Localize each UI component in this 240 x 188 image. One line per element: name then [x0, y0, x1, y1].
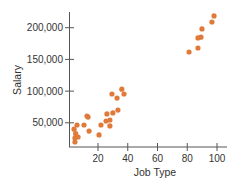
- data-point: [198, 35, 203, 40]
- data-point: [209, 19, 214, 24]
- x-axis-title: Job Type: [134, 166, 177, 178]
- data-point: [114, 95, 119, 100]
- data-point: [107, 123, 112, 128]
- data-point: [107, 117, 112, 122]
- scatter-chart: 50,000100,000150,000200,000 20406080100 …: [0, 0, 240, 188]
- data-point: [199, 26, 204, 31]
- y-tick-label: 150,000: [27, 54, 64, 65]
- x-tick-label: 80: [182, 153, 194, 164]
- y-tick-label: 200,000: [27, 22, 64, 33]
- data-point: [98, 122, 103, 127]
- data-point: [115, 108, 120, 113]
- data-point: [86, 128, 91, 133]
- x-tick-label: 20: [92, 153, 104, 164]
- data-point: [121, 91, 126, 96]
- y-ticks: 50,000100,000150,000200,000: [27, 22, 74, 128]
- data-point: [195, 45, 200, 50]
- data-point: [74, 122, 79, 127]
- y-axis-title: Salary: [11, 64, 23, 95]
- data-point: [73, 131, 78, 136]
- data-point: [186, 49, 191, 54]
- data-point: [96, 132, 101, 137]
- data-point: [109, 91, 114, 96]
- x-ticks: 20406080100: [92, 143, 225, 164]
- data-point: [211, 13, 216, 18]
- y-tick-label: 50,000: [32, 117, 63, 128]
- data-point: [72, 139, 77, 144]
- x-tick-label: 40: [122, 153, 134, 164]
- data-point: [110, 110, 115, 115]
- data-point: [81, 122, 86, 127]
- data-points: [71, 13, 216, 144]
- y-tick-label: 100,000: [27, 86, 64, 97]
- data-point: [85, 114, 90, 119]
- data-point: [119, 87, 124, 92]
- data-point: [104, 111, 109, 116]
- x-tick-label: 100: [209, 153, 226, 164]
- x-tick-label: 60: [152, 153, 164, 164]
